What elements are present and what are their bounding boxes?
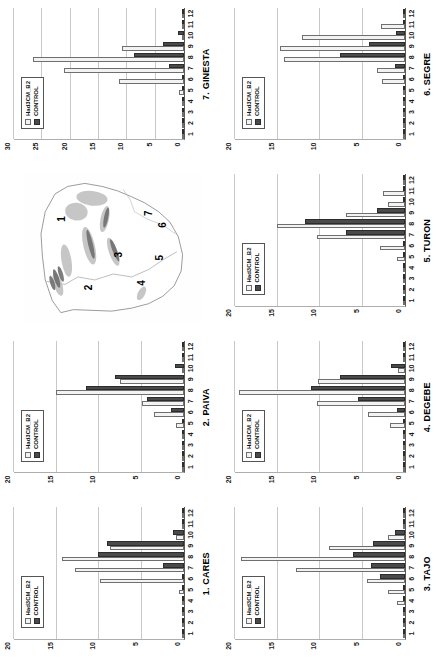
y-axis-tick-label: 15 bbox=[46, 642, 53, 650]
y-axis-tick-label: 15 bbox=[46, 476, 53, 484]
bar-b2 bbox=[403, 434, 405, 439]
bar-control bbox=[403, 419, 405, 424]
y-axis-tick-label: 20 bbox=[4, 642, 11, 650]
bar-group: 12 bbox=[235, 508, 405, 519]
x-axis-tick-label: 12 bbox=[408, 176, 415, 184]
x-axis-tick-label: 10 bbox=[408, 365, 415, 373]
bar-control bbox=[182, 441, 184, 446]
y-axis-tick-label: 5 bbox=[131, 476, 138, 480]
y-axis-tick-label: 0 bbox=[395, 309, 402, 313]
x-axis-tick-label: 12 bbox=[408, 343, 415, 351]
y-axis-tick-label: 10 bbox=[310, 309, 317, 317]
x-axis-tick-label: 9 bbox=[408, 544, 415, 548]
legend-1-cares: Had3CM_B2CONTROL bbox=[21, 576, 44, 628]
bar-control bbox=[373, 541, 405, 546]
x-axis-tick-label: 10 bbox=[408, 32, 415, 40]
plot-5-turon: 05101520123456789101112Had3CM_B2CONTROL bbox=[235, 175, 406, 308]
y-axis-tick-label: 10 bbox=[310, 476, 317, 484]
bar-b2 bbox=[182, 101, 184, 106]
bar-group: 11 bbox=[235, 186, 405, 197]
bar-control bbox=[311, 386, 405, 391]
bar-b2 bbox=[403, 467, 405, 472]
x-axis-tick-label: 4 bbox=[408, 99, 415, 103]
bar-b2 bbox=[403, 612, 405, 617]
x-axis-tick-label: 6 bbox=[408, 244, 415, 248]
bar-b2 bbox=[367, 579, 405, 584]
bar-group: 7 bbox=[14, 396, 184, 407]
y-axis-tick-label: 15 bbox=[267, 143, 274, 151]
x-axis-tick-label: 3 bbox=[408, 277, 415, 281]
bar-control bbox=[182, 451, 184, 456]
bar-b2 bbox=[380, 246, 406, 251]
bar-group: 12 bbox=[14, 341, 184, 352]
bar-control bbox=[182, 75, 184, 80]
x-axis-tick-label: 10 bbox=[187, 32, 194, 40]
bar-b2 bbox=[381, 25, 405, 30]
chart-7-ginesta: 051015202530123456789101112Had3CM_B2CONT… bbox=[0, 0, 221, 167]
bar-b2 bbox=[403, 268, 405, 273]
legend-label: CONTROL bbox=[253, 253, 262, 283]
bar-group: 11 bbox=[235, 352, 405, 363]
y-axis-tick-label: 20 bbox=[225, 309, 232, 317]
bar-b2 bbox=[403, 445, 405, 450]
x-axis-tick-label: 7 bbox=[408, 66, 415, 70]
bar-b2 bbox=[182, 434, 184, 439]
bar-group: 11 bbox=[14, 19, 184, 30]
bar-b2 bbox=[33, 57, 184, 62]
legend-label: CONTROL bbox=[32, 419, 41, 449]
y-axis-tick-label: 10 bbox=[89, 642, 96, 650]
x-axis-tick-label: 2 bbox=[408, 454, 415, 458]
chart-1-cares: 05101520123456789101112Had3CM_B2CONTROL1… bbox=[0, 500, 221, 666]
iberian-peninsula-map: 1 2 3 4 5 6 7 bbox=[24, 175, 201, 324]
legend-item-b2: Had3CM_B2 bbox=[245, 247, 254, 291]
bar-b2 bbox=[182, 634, 184, 639]
panel-grid: 05101520123456789101112Had3CM_B2CONTROL1… bbox=[0, 0, 442, 666]
legend-item-control: CONTROL bbox=[253, 414, 262, 458]
bar-b2 bbox=[142, 401, 185, 406]
bar-control bbox=[182, 108, 184, 113]
map-site-label-6: 6 bbox=[157, 222, 168, 228]
x-axis-tick-label: 4 bbox=[408, 432, 415, 436]
bar-group: 1 bbox=[14, 628, 184, 639]
bar-control bbox=[403, 342, 405, 347]
bar-b2 bbox=[280, 46, 405, 51]
bar-group: 7 bbox=[235, 396, 405, 407]
bar-control bbox=[403, 197, 405, 202]
y-axis-tick-label: 5 bbox=[131, 642, 138, 646]
legend-label: Had3CM_B2 bbox=[24, 580, 33, 615]
y-axis-tick-label: 0 bbox=[395, 143, 402, 147]
bar-group: 10 bbox=[14, 363, 184, 374]
bar-control bbox=[403, 186, 405, 191]
bar-b2 bbox=[120, 379, 184, 384]
bar-control bbox=[340, 53, 405, 58]
y-axis-tick-label: 0 bbox=[395, 642, 402, 646]
bar-group: 1 bbox=[14, 462, 184, 473]
y-axis-tick-label: 5 bbox=[352, 143, 359, 147]
plot-area-6-segre: 05101520123456789101112Had3CM_B2CONTROL bbox=[235, 8, 406, 141]
legend-swatch-b2 bbox=[25, 618, 31, 624]
bar-control bbox=[403, 519, 405, 524]
x-axis-tick-label: 11 bbox=[408, 21, 415, 28]
legend-item-control: CONTROL bbox=[32, 81, 41, 125]
legend-label: CONTROL bbox=[253, 586, 262, 616]
x-axis-tick-label: 5 bbox=[408, 88, 415, 92]
bar-b2 bbox=[64, 68, 184, 73]
plot-4-degebe: 05101520123456789101112Had3CM_B2CONTROL bbox=[235, 341, 406, 474]
bar-b2 bbox=[377, 68, 405, 73]
x-axis-tick-label: 12 bbox=[187, 343, 194, 351]
bar-control bbox=[115, 375, 184, 380]
bar-b2 bbox=[182, 112, 184, 117]
bar-control bbox=[178, 31, 184, 36]
chart-title-5-turon: 5. TURON bbox=[422, 175, 432, 308]
plot-area-3-tajo: 05101520123456789101112Had3CM_B2CONTROL bbox=[235, 508, 406, 641]
bar-control bbox=[395, 64, 405, 69]
bar-control bbox=[163, 42, 184, 47]
x-axis-tick-label: 8 bbox=[408, 555, 415, 559]
bar-control bbox=[182, 430, 184, 435]
legend-label: CONTROL bbox=[32, 86, 41, 116]
panel-4-degebe: 05101520123456789101112Had3CM_B2CONTROL4… bbox=[221, 333, 442, 500]
bar-b2 bbox=[388, 535, 405, 540]
x-axis-tick-label: 1 bbox=[408, 132, 415, 136]
bar-b2 bbox=[397, 601, 406, 606]
bar-group: 10 bbox=[235, 363, 405, 374]
